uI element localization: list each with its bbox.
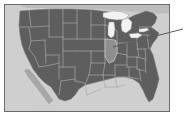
map-figure <box>0 0 186 120</box>
map-frame <box>4 4 170 112</box>
lake-michigan-shape <box>108 22 115 38</box>
us-map-graphic <box>5 5 169 111</box>
